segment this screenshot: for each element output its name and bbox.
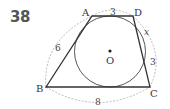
geometry-figure: A D B C O 3 6 8 x 3: [0, 0, 170, 109]
length-ab: 6: [55, 43, 61, 53]
length-bc: 8: [95, 97, 101, 107]
length-dc-3: 3: [150, 57, 156, 67]
vertex-c-label: C: [150, 88, 158, 99]
vertex-d-label: D: [134, 7, 142, 18]
length-ad: 3: [110, 7, 116, 17]
center-o-label: O: [106, 55, 114, 66]
length-dc-x: x: [144, 27, 149, 37]
vertex-b-label: B: [36, 83, 43, 94]
vertex-a-label: A: [81, 7, 90, 18]
quadrilateral-abcd: [46, 16, 150, 87]
center-point: [108, 49, 111, 52]
